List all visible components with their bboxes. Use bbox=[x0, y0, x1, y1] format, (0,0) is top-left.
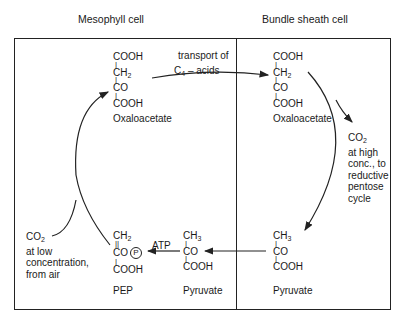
co2-uptake-curve bbox=[52, 200, 76, 236]
decarboxylation-arc-arrow bbox=[305, 72, 336, 230]
carboxylation-arc-arrow bbox=[76, 92, 110, 245]
transport-arrow bbox=[152, 72, 268, 78]
co2-release-arrow bbox=[336, 100, 352, 122]
arrows-layer bbox=[0, 0, 403, 322]
